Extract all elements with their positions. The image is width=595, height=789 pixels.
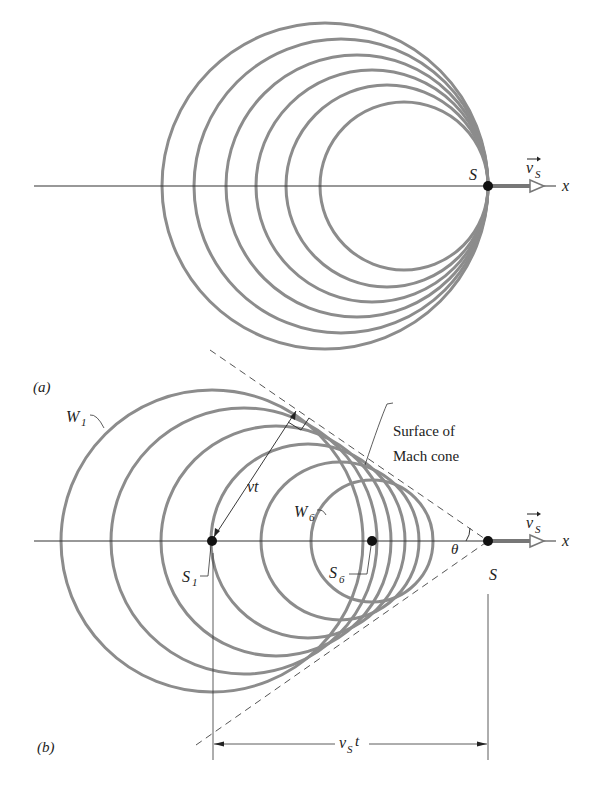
panel-b-label: (b) [37,739,55,756]
svg-text:6: 6 [309,511,315,523]
source-s-dot [483,536,493,546]
theta-arc [466,528,470,541]
svg-text:v: v [526,159,534,176]
source-label-b: S [489,566,497,583]
source-s1-dot [207,536,217,546]
mach-cone-leader [365,403,393,465]
velocity-label-b: v S [526,512,541,536]
mach-cone-label: Surface of Mach cone [365,403,460,465]
svg-text:S: S [347,743,353,755]
w1-label: W 1 [66,408,104,428]
theta-label: θ [451,541,459,557]
s1-label: S 1 [182,545,211,588]
svg-text:Mach cone: Mach cone [393,448,460,464]
dimension-arrowhead-right [477,742,487,747]
svg-text:W: W [66,408,81,425]
mach-cone-upper [210,350,488,541]
s6-label: S 6 [329,546,371,585]
source-dot-a [483,181,493,191]
svg-text:v: v [339,734,347,751]
svg-text:S: S [329,564,337,581]
svg-text:1: 1 [81,416,87,428]
dimension-label: v S t [339,733,360,755]
svg-text:S: S [535,523,541,535]
svg-text:1: 1 [192,576,198,588]
dimension-arrowhead-left [214,742,224,747]
velocity-label-a: v S [526,157,541,181]
source-label-a: S [469,166,477,183]
svg-text:W: W [294,503,309,520]
svg-text:6: 6 [339,573,345,585]
svg-text:S: S [182,568,190,585]
mach-cone-lower [196,541,488,745]
vt-arrow-line [214,411,296,537]
vector-arrowhead-icon [537,157,541,162]
panel-b: θ W 1 W 6 S 1 S 6 S vt Surface of Mach c… [34,350,569,760]
panel-a-label: (a) [33,379,51,396]
vector-arrowhead-icon [537,512,541,517]
svg-text:Surface of: Surface of [393,423,455,439]
w1-leader [90,415,104,428]
svg-text:t: t [355,733,360,749]
panel-a: S v S x (a) [33,23,569,396]
mach-cone-diagram: S v S x (a) [0,0,595,789]
s1-leader [200,545,211,576]
svg-text:v: v [526,514,534,531]
velocity-arrowhead-b [530,535,544,547]
svg-text:S: S [535,168,541,180]
velocity-arrowhead-a [530,180,544,192]
source-s6-dot [367,536,377,546]
x-axis-label-b: x [561,532,569,549]
vt-label: vt [247,478,259,495]
x-axis-label-a: x [561,177,569,194]
